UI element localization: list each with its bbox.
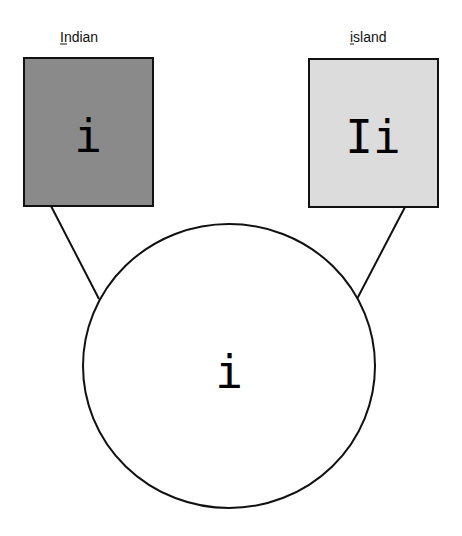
circle-node: i bbox=[83, 224, 375, 508]
box-label-island: island bbox=[350, 29, 387, 45]
label-mnemonic: Indian bbox=[60, 29, 98, 45]
connector-right bbox=[357, 207, 405, 299]
circle-glyph: i bbox=[215, 345, 243, 399]
box-island: island Ii bbox=[309, 29, 438, 207]
box-glyph: Ii bbox=[345, 110, 400, 164]
connector-left bbox=[51, 206, 99, 299]
box-glyph: i bbox=[74, 109, 102, 163]
diagram-canvas: Indian i island Ii i bbox=[0, 0, 462, 536]
box-indian: Indian i bbox=[24, 29, 153, 206]
box-label-indian: Indian bbox=[60, 29, 98, 45]
